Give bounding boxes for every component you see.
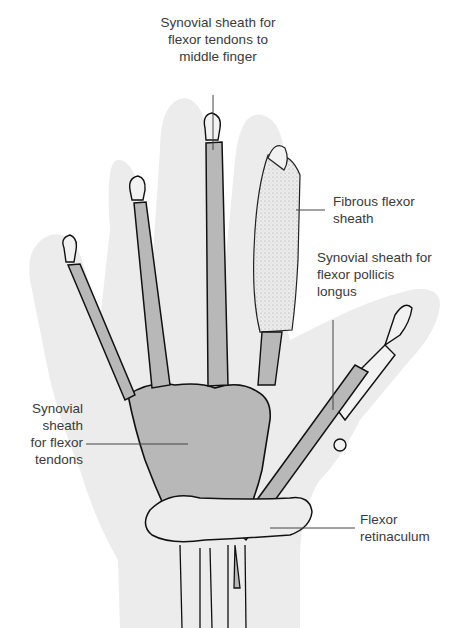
flexor-retinaculum: [145, 496, 312, 542]
label-flexor-retinaculum: Flexor retinaculum: [360, 511, 460, 545]
label-fibrous-flexor-sheath: Fibrous flexor sheath: [333, 193, 463, 227]
middle-finger: [204, 113, 228, 386]
label-fpl-sheath: Synovial sheath for flexor pollicis long…: [317, 249, 466, 300]
label-middle-finger-sheath: Synovial sheath for flexor tendons to mi…: [138, 14, 298, 65]
label-common-synovial-sheath: Synovial sheath for flexor tendons: [5, 400, 83, 468]
fibrous-flexor-sheath: [254, 154, 300, 332]
